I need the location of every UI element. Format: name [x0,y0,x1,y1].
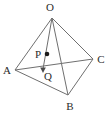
vertex-label-C: C [97,54,104,65]
interior-points [45,52,50,57]
tetrahedron-edges [15,18,93,95]
point-P-dot [45,52,50,57]
point-label-Q: Q [44,71,52,82]
vertex-label-B: B [66,101,73,112]
edge-OB [52,18,68,95]
edge-OC [52,18,93,59]
edge-AB [15,70,68,95]
segment-OQ [43,18,52,69]
edge-AC [15,59,93,70]
tetrahedron-drawing [0,0,111,113]
geometry-figure: O A B C P Q [0,0,111,113]
edge-OA [15,18,52,70]
vertex-label-A: A [3,65,11,76]
edge-BC [68,59,93,95]
point-label-P: P [35,49,41,60]
vertex-label-O: O [46,2,54,13]
